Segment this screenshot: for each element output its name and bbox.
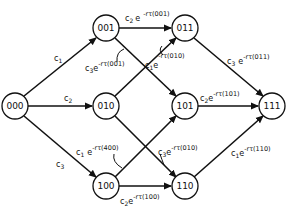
- node-010: 010: [93, 93, 119, 119]
- svg-text:000: 000: [6, 101, 23, 111]
- edge-labels: c1 c2 c3 c2e-rτ(001) c3e-rτ(001) c1e-rτ(…: [54, 10, 271, 207]
- edge-label-001-011: c2e-rτ(001): [125, 10, 170, 24]
- svg-text:100: 100: [97, 181, 114, 191]
- label-pointer-100-101: [114, 154, 122, 168]
- svg-text:010: 010: [97, 101, 114, 111]
- edge-label-000-001: c1: [54, 54, 62, 64]
- edge-label-000-100: c3: [56, 160, 64, 170]
- svg-text:110: 110: [176, 181, 193, 191]
- node-001: 001: [93, 15, 119, 41]
- edge-label-000-010: c2: [64, 94, 72, 104]
- node-100: 100: [93, 173, 119, 199]
- node-011: 011: [172, 15, 198, 41]
- edge-label-101-111: c2e-rτ(101): [200, 90, 240, 104]
- edge-label-110-111: c1e-rτ(110): [231, 145, 271, 159]
- edge-label-100-101: c1e-rτ(400): [76, 144, 119, 158]
- node-000: 000: [2, 93, 28, 119]
- edge-label-010-110: c3e-rτ(010): [158, 144, 198, 158]
- node-101: 101: [172, 93, 198, 119]
- svg-text:011: 011: [176, 23, 193, 33]
- edge-label-001-101: c3e-rτ(001): [85, 60, 125, 74]
- edge-011-111: [194, 38, 263, 96]
- edge-label-011-111: c3e-rτ(011): [227, 53, 270, 67]
- state-diagram: c1 c2 c3 c2e-rτ(001) c3e-rτ(001) c1e-rτ(…: [0, 0, 288, 219]
- node-110: 110: [172, 173, 198, 199]
- svg-text:111: 111: [263, 101, 280, 111]
- edge-label-100-110: c2e-rτ(100): [120, 193, 160, 207]
- svg-text:101: 101: [176, 101, 193, 111]
- node-111: 111: [259, 93, 285, 119]
- svg-text:001: 001: [97, 23, 114, 33]
